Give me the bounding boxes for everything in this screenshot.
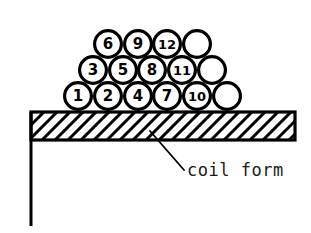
wire-circles-group: 124710358116912: [65, 31, 241, 110]
wire-circle-number: 2: [103, 87, 113, 105]
wire-circle-number: 1: [73, 87, 83, 105]
coil-form-bar: [3, 112, 311, 140]
top-row: 6912: [95, 31, 211, 58]
wire-circle-7: 7: [154, 83, 181, 110]
wire-circle-number: 4: [133, 87, 143, 105]
wire-circle-5: 5: [110, 57, 137, 84]
wire-circle-4: 4: [125, 83, 152, 110]
wire-circle-1: 1: [65, 83, 92, 110]
wire-circle-number: 9: [133, 35, 143, 53]
middle-row: 35811: [80, 57, 226, 84]
wire-circle-number: 3: [88, 61, 98, 79]
wire-circle-unnumbered: [199, 57, 226, 84]
wire-circle-number: 6: [103, 35, 113, 53]
wire-circle-10: 10: [184, 83, 211, 110]
wire-circle-number: 5: [118, 61, 128, 79]
coil-winding-diagram: 124710358116912 coil form: [0, 0, 311, 233]
wire-circle-number: 10: [188, 89, 206, 104]
wire-circle-11: 11: [169, 57, 196, 84]
hatch-line: [3, 112, 31, 140]
wire-circle-12: 12: [154, 31, 181, 58]
wire-circle-number: 11: [173, 63, 191, 78]
wire-circle-outline: [199, 57, 226, 84]
wire-circle-number: 8: [147, 61, 157, 79]
coil-form-label: coil form: [187, 160, 284, 180]
wire-circle-2: 2: [95, 83, 122, 110]
hatch-line: [302, 112, 311, 140]
wire-circle-3: 3: [80, 57, 107, 84]
wire-circle-unnumbered: [184, 31, 211, 58]
wire-circle-number: 12: [158, 37, 176, 52]
wire-circle-6: 6: [95, 31, 122, 58]
wire-circle-outline: [214, 83, 241, 110]
wire-circle-8: 8: [139, 57, 166, 84]
wire-circle-unnumbered: [214, 83, 241, 110]
wire-circle-9: 9: [125, 31, 152, 58]
wire-circle-number: 7: [162, 87, 172, 105]
bottom-row: 124710: [65, 83, 241, 110]
diagram-canvas: 124710358116912 coil form: [0, 0, 311, 233]
wire-circle-outline: [184, 31, 211, 58]
